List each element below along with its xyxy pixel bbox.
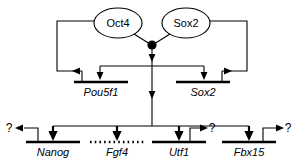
oct4-feedback-path — [57, 21, 95, 71]
fbx15-output-path — [263, 128, 276, 141]
arrowhead-into-nanog — [48, 131, 57, 141]
nanog-output-path — [24, 128, 38, 141]
oct4-to-hub-link — [134, 34, 150, 44]
protein-nodes-group: Oct4 Sox2 — [94, 8, 210, 38]
gene-regulatory-network-diagram: Oct4 Sox2 Pou5f1 Sox2 Nanog Fgf4 Utf1 Fb… — [0, 0, 303, 168]
nanog-output-group — [15, 125, 38, 141]
arrowhead-into-pou5f1 — [97, 72, 104, 80]
fbx15-output-arrowhead — [276, 125, 284, 132]
sox2-feedback-loop-group — [209, 21, 247, 81]
trunk-arrowhead-lower — [149, 91, 156, 99]
gene-label-pou5f1: Pou5f1 — [84, 86, 119, 98]
utf1-output-path — [190, 128, 200, 141]
trunk-arrowhead-upper — [149, 54, 156, 62]
sox2-feedback-arrowhead — [224, 68, 232, 75]
query-mark-utf1: ? — [209, 121, 216, 135]
sox2-feedback-path — [209, 21, 247, 71]
gene-label-nanog: Nanog — [37, 146, 70, 158]
gene-labels-group: Pou5f1 Sox2 Nanog Fgf4 Utf1 Fbx15 — [37, 86, 265, 158]
gene-label-sox2: Sox2 — [190, 86, 215, 98]
oct4-feedback-arrowhead — [72, 68, 80, 75]
nanog-output-arrowhead — [15, 125, 23, 132]
fbx15-output-group — [263, 125, 284, 141]
oct4-sox2-complex-dot — [147, 40, 156, 49]
utf1-output-group — [190, 125, 208, 141]
lower-branch-bus-group — [48, 126, 253, 141]
protein-label-oct4: Oct4 — [106, 17, 129, 29]
arrowhead-into-sox2-gene — [201, 72, 208, 80]
protein-label-sox2: Sox2 — [173, 17, 198, 29]
query-mark-nanog: ? — [6, 121, 13, 135]
gene-label-fgf4: Fgf4 — [106, 146, 128, 158]
oct4-feedback-loop-group — [57, 21, 95, 81]
arrowhead-into-fbx15 — [244, 131, 253, 141]
network-canvas: Oct4 Sox2 Pou5f1 Sox2 Nanog Fgf4 Utf1 Fb… — [0, 0, 303, 168]
arrowhead-into-utf1 — [174, 131, 183, 141]
query-mark-fbx15: ? — [285, 121, 292, 135]
sox2-to-hub-link — [154, 34, 170, 44]
complex-formation-group — [134, 34, 170, 50]
arrowhead-into-fgf4 — [112, 131, 121, 141]
gene-label-utf1: Utf1 — [169, 146, 189, 158]
central-trunk-group — [149, 49, 156, 126]
gene-label-fbx15: Fbx15 — [234, 146, 265, 158]
